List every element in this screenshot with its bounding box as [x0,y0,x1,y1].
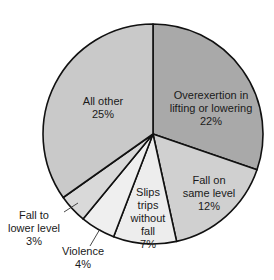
label-overexertion: Overexertion in lifting or lowering 22% [166,89,256,128]
label-line: All other [78,95,128,108]
label-violence: Violence 4% [58,245,108,271]
leader-line-violence [90,229,100,246]
label-fall-lower-level: Fall to lower level 3% [6,209,62,248]
label-line: fall [128,225,168,238]
label-line: without [128,212,168,225]
label-value: 12% [176,200,242,213]
label-line: lifting or lowering [166,102,256,115]
label-slips-trips: Slips trips without fall 7% [128,186,168,251]
label-line: Overexertion in [166,89,256,102]
label-line: Fall to [6,209,62,222]
label-line: Slips [128,186,168,199]
label-line: same level [176,187,242,200]
label-line: trips [128,199,168,212]
label-value: 25% [78,108,128,121]
label-line: Violence [58,245,108,258]
label-value: 3% [6,235,62,248]
label-line: Fall on [176,174,242,187]
label-value: 22% [166,115,256,128]
label-line: lower level [6,222,62,235]
label-all-other: All other 25% [78,95,128,121]
label-value: 7% [128,238,168,251]
label-fall-same-level: Fall on same level 12% [176,174,242,213]
label-value: 4% [58,258,108,271]
